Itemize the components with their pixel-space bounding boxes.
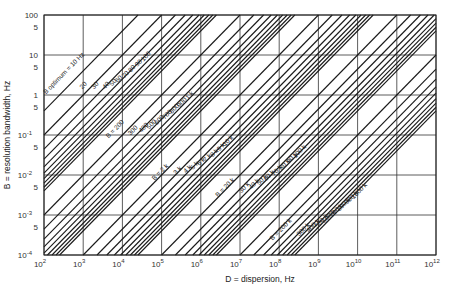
x-tick-label: 1012 [424,258,440,269]
curve-line [44,15,204,179]
y-tick-label: 5 [34,103,39,112]
y-axis-label: B = resolution bandwidth, Hz [2,81,12,189]
y-axis-ticks: 10051051510-1510-2510-3510-4 [18,11,39,260]
x-tick-label: 102 [34,258,47,269]
curve-line [44,15,271,247]
chart: B optimum = 10 Hz2030405060708090100B = … [0,0,455,289]
x-tick-label: 108 [269,258,282,269]
y-tick-label: 10-3 [18,210,33,220]
x-tick-label: 105 [151,258,164,269]
curve-label: 20 [78,80,88,90]
curve-line [240,55,436,255]
curve-label: B optimum = 10 Hz [42,51,87,96]
curve-line [264,79,436,255]
y-tick-label: 10-4 [18,250,33,260]
y-tick-label: 10 [29,51,38,60]
curve-label: B = 2 k [150,161,170,181]
x-tick-label: 1011 [385,258,401,269]
x-tick-label: 107 [230,258,243,269]
curve-line [44,15,185,159]
curve-label: B = 20 k [214,176,236,199]
curve-line [295,111,436,255]
y-tick-label: 5 [34,223,39,232]
y-tick-label: 10-1 [18,130,33,140]
x-tick-label: 109 [308,258,321,269]
y-tick-label: 10-2 [18,170,33,180]
y-tick-label: 1 [34,91,39,100]
curve-label: 30 [90,80,100,90]
y-tick-label: 100 [25,11,39,20]
curve-line [44,15,240,215]
curve-line [44,15,264,239]
y-tick-label: 5 [34,143,39,152]
y-tick-label: 5 [34,63,39,72]
y-tick-label: 5 [34,23,39,32]
y-tick-label: 5 [34,183,39,192]
x-tick-label: 103 [73,258,86,269]
curve-line [44,15,277,253]
x-tick-label: 106 [191,258,204,269]
x-axis-label: D = dispersion, Hz [225,274,295,284]
x-tick-label: 104 [112,258,125,269]
x-tick-label: 1010 [346,258,362,269]
x-axis-ticks: 102103104105106107108109101010111012 [34,258,441,269]
curve-line [44,15,193,167]
